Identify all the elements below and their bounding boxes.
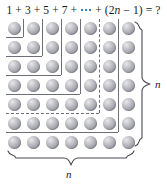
grid-dot bbox=[84, 22, 97, 35]
grid-dot bbox=[27, 60, 40, 73]
gnomon-line-6-horizontal bbox=[6, 132, 118, 133]
gnomon-line-5-horizontal-dashed bbox=[6, 113, 99, 114]
gnomon-line-1-horizontal bbox=[6, 37, 23, 38]
grid-dot bbox=[84, 60, 97, 73]
grid-dot bbox=[27, 98, 40, 111]
grid-dot bbox=[27, 136, 40, 149]
grid-dot bbox=[84, 79, 97, 92]
gnomon-line-2-vertical bbox=[42, 19, 43, 56]
grid-dot bbox=[65, 117, 78, 130]
grid-dot bbox=[27, 22, 40, 35]
grid-dot bbox=[27, 117, 40, 130]
equation-mid: + (2 bbox=[92, 4, 114, 16]
gnomon-line-2-horizontal bbox=[6, 56, 42, 57]
grid-dot bbox=[8, 117, 21, 130]
grid-dot bbox=[65, 79, 78, 92]
grid-dot bbox=[103, 98, 116, 111]
grid-dot bbox=[27, 41, 40, 54]
grid-dot bbox=[8, 136, 21, 149]
right-brace bbox=[134, 20, 152, 150]
gnomon-line-1-vertical bbox=[23, 19, 24, 37]
gnomon-line-4-vertical bbox=[80, 19, 81, 94]
grid-dot bbox=[46, 117, 59, 130]
gnomon-line-5-vertical-dashed bbox=[99, 19, 100, 113]
bottom-brace bbox=[6, 150, 138, 166]
dot-grid bbox=[8, 22, 134, 148]
grid-dot bbox=[46, 136, 59, 149]
grid-dot bbox=[46, 79, 59, 92]
grid-dot bbox=[84, 136, 97, 149]
grid-dot bbox=[8, 41, 21, 54]
grid-dot bbox=[8, 79, 21, 92]
grid-dot bbox=[103, 136, 116, 149]
equation-ellipsis: ⋯ bbox=[80, 4, 92, 16]
gnomon-line-4-horizontal bbox=[6, 94, 80, 95]
grid-dot bbox=[65, 98, 78, 111]
grid-dot bbox=[8, 98, 21, 111]
grid-dot bbox=[84, 98, 97, 111]
grid-dot bbox=[103, 41, 116, 54]
grid-dot bbox=[103, 22, 116, 35]
grid-dot bbox=[103, 60, 116, 73]
grid-dot bbox=[103, 117, 116, 130]
grid-dot bbox=[46, 98, 59, 111]
right-brace-label: n bbox=[155, 78, 161, 90]
bottom-brace-label: n bbox=[66, 168, 72, 180]
equation-lead: 1 + 3 + 5 + 7 + bbox=[7, 4, 81, 16]
equation-line: 1 + 3 + 5 + 7 + ⋯ + (2n − 1) = ? bbox=[0, 3, 167, 17]
grid-dot bbox=[46, 41, 59, 54]
odd-number-sum-figure: 1 + 3 + 5 + 7 + ⋯ + (2n − 1) = ? bbox=[0, 0, 167, 188]
grid-dot bbox=[65, 22, 78, 35]
grid-dot bbox=[8, 60, 21, 73]
gnomon-line-3-horizontal bbox=[6, 75, 61, 76]
grid-dot bbox=[8, 22, 21, 35]
grid-dot bbox=[84, 41, 97, 54]
equation-tail: − 1) = ? bbox=[120, 4, 160, 16]
grid-dot bbox=[103, 79, 116, 92]
gnomon-line-3-vertical bbox=[61, 19, 62, 75]
grid-dot bbox=[46, 60, 59, 73]
grid-dot bbox=[46, 22, 59, 35]
grid-dot bbox=[84, 117, 97, 130]
grid-dot bbox=[65, 60, 78, 73]
grid-dot bbox=[27, 79, 40, 92]
grid-dot bbox=[65, 41, 78, 54]
gnomon-line-6-vertical bbox=[118, 19, 119, 132]
grid-dot bbox=[65, 136, 78, 149]
